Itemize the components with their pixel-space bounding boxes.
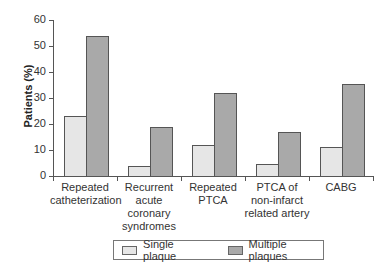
bar-single-plaque: [320, 147, 343, 177]
bar-multiple-plaques: [342, 84, 365, 177]
bar-chart: Patients (%) 0102030405060 Repeatedcathe…: [0, 0, 386, 274]
bar-single-plaque: [128, 166, 151, 177]
bar-single-plaque: [192, 145, 215, 177]
legend-swatch-single-plaque: [122, 246, 137, 255]
legend-swatch-multiple-plaques: [228, 246, 243, 255]
x-category-label: Repeatedcatheterization: [50, 181, 120, 207]
y-tick-label: 20: [26, 117, 46, 129]
bar-multiple-plaques: [86, 36, 109, 177]
y-tick-label: 50: [26, 39, 46, 51]
x-category-label: PTCA ofnon-infarctrelated artery: [242, 181, 312, 220]
bar-multiple-plaques: [214, 93, 237, 177]
y-tick-label: 10: [26, 143, 46, 155]
chart-axes: [0, 0, 386, 274]
y-tick-label: 0: [26, 169, 46, 181]
y-tick-label: 60: [26, 13, 46, 25]
bar-multiple-plaques: [278, 132, 301, 177]
x-category-label: RepeatedPTCA: [178, 181, 248, 207]
x-category-label: CABG: [306, 181, 376, 194]
y-tick-label: 30: [26, 91, 46, 103]
legend-label-multiple-plaques: Multiple plaques: [249, 238, 323, 262]
x-category-label: Recurrentacutecoronarysyndromes: [114, 181, 184, 233]
legend: Single plaque Multiple plaques: [113, 240, 324, 260]
y-tick-label: 40: [26, 65, 46, 77]
bar-single-plaque: [256, 164, 279, 177]
bar-single-plaque: [64, 116, 87, 177]
bar-multiple-plaques: [150, 127, 173, 177]
legend-label-single-plaque: Single plaque: [143, 238, 205, 262]
